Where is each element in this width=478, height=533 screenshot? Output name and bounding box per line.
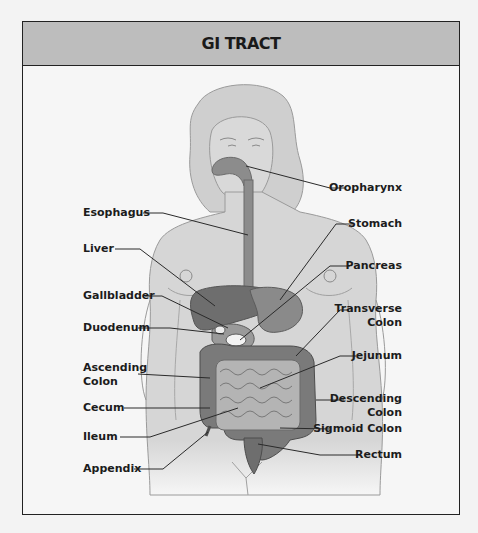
- label-liver: Liver: [83, 242, 114, 256]
- label-duodenum: Duodenum: [83, 321, 150, 335]
- label-descending-colon: Descending Colon: [330, 392, 402, 420]
- label-gallbladder: Gallbladder: [83, 289, 155, 303]
- label-transverse-colon: Transverse Colon: [334, 302, 402, 330]
- label-transverse-colon-line1: Transverse: [334, 302, 402, 316]
- label-descending-colon-line1: Descending: [330, 392, 402, 406]
- label-ascending-colon: Ascending Colon: [83, 361, 147, 389]
- anatomy-illustration: [0, 0, 478, 533]
- label-stomach: Stomach: [348, 217, 402, 231]
- label-esophagus: Esophagus: [83, 206, 150, 220]
- label-pancreas: Pancreas: [346, 259, 402, 273]
- label-descending-colon-line2: Colon: [330, 406, 402, 420]
- label-sigmoid-colon: Sigmoid Colon: [313, 422, 402, 436]
- label-ileum: Ileum: [83, 430, 118, 444]
- label-ascending-colon-line2: Colon: [83, 375, 147, 389]
- face-shape: [210, 117, 273, 200]
- label-ascending-colon-line1: Ascending: [83, 361, 147, 375]
- label-transverse-colon-line2: Colon: [334, 316, 402, 330]
- esophagus-shape: [244, 180, 253, 292]
- label-oropharynx: Oropharynx: [329, 181, 402, 195]
- pancreas-shape: [226, 334, 246, 346]
- label-jejunum: Jejunum: [352, 349, 402, 363]
- label-cecum: Cecum: [83, 401, 124, 415]
- label-appendix: Appendix: [83, 462, 141, 476]
- small-intestine-shape: [216, 360, 300, 430]
- label-rectum: Rectum: [355, 448, 402, 462]
